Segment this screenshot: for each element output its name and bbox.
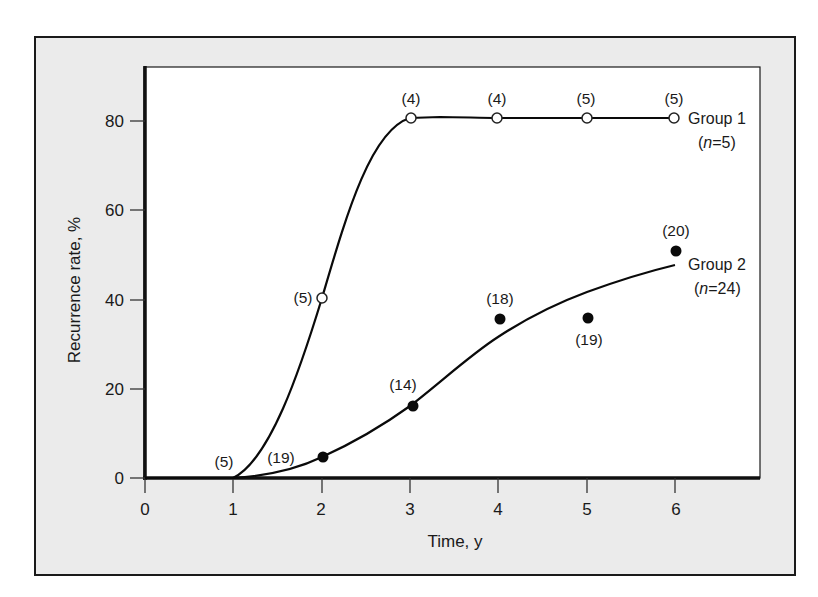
x-tick-label: 5 [582, 500, 591, 519]
group1-label: Group 1 [688, 110, 746, 127]
group1-point [669, 113, 679, 123]
y-tick-label: 60 [105, 201, 124, 220]
group2-n-label: (n=24) [694, 280, 741, 297]
group1-point [582, 113, 592, 123]
annotation: (5) [665, 90, 684, 107]
y-tick-label: 20 [105, 380, 124, 399]
group2-point [495, 314, 506, 325]
x-tick-label: 3 [405, 500, 414, 519]
annotation: (5) [294, 289, 313, 306]
x-tick-label: 2 [316, 500, 325, 519]
annotation: (20) [662, 222, 690, 239]
group1-point [492, 113, 502, 123]
x-axis-title: Time, y [427, 532, 483, 551]
group2-label: Group 2 [688, 256, 746, 273]
annotation: (4) [402, 90, 421, 107]
y-axis-title: Recurrence rate, % [65, 217, 84, 363]
x-tick-label: 6 [671, 500, 680, 519]
group1-point [406, 113, 416, 123]
x-tick-label: 4 [493, 500, 502, 519]
group2-point [671, 246, 682, 257]
group2-point [408, 401, 419, 412]
group1-point [317, 293, 327, 303]
annotation: (19) [575, 331, 603, 348]
annotation: (4) [488, 90, 507, 107]
x-tick-label: 0 [140, 500, 149, 519]
annotation: (5) [215, 453, 234, 470]
y-tick-label: 40 [105, 291, 124, 310]
y-tick-label: 80 [105, 112, 124, 131]
x-tick-label: 1 [228, 500, 237, 519]
annotation: (5) [577, 90, 596, 107]
annotation: (14) [389, 376, 417, 393]
annotation: (18) [486, 290, 514, 307]
group2-point [318, 452, 329, 463]
group2-point [583, 313, 594, 324]
recurrence-chart: 0 20 40 60 80 0 1 2 3 4 5 6 Time, y Recu… [0, 0, 818, 597]
y-tick-label: 0 [115, 469, 124, 488]
group1-n-label: (n=5) [698, 134, 736, 151]
annotation: (19) [267, 449, 295, 466]
plot-area [144, 67, 760, 478]
